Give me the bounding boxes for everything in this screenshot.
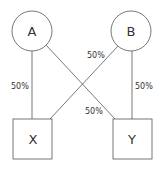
edge-b-x <box>50 46 118 119</box>
edge-label-b-y: 50% <box>135 82 153 91</box>
node-b: B <box>111 11 151 51</box>
diagram: A B X Y 50% 50% 50% 50% <box>0 0 164 171</box>
node-x: X <box>13 119 52 159</box>
node-y: Y <box>113 119 152 159</box>
node-a: A <box>12 11 52 51</box>
svg-text:Y: Y <box>127 132 136 147</box>
edges <box>32 45 132 119</box>
edge-label-a-y: 50% <box>85 107 103 116</box>
svg-text:A: A <box>28 24 37 39</box>
svg-text:X: X <box>29 132 38 147</box>
edge-label-b-x: 50% <box>87 51 105 60</box>
svg-text:B: B <box>127 24 136 39</box>
edge-label-a-x: 50% <box>11 82 29 91</box>
